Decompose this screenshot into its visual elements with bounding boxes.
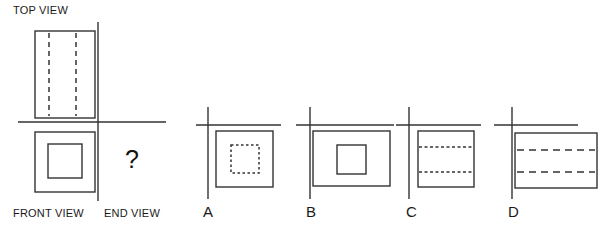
front-view-drawing (35, 132, 95, 192)
top-view-drawing (35, 31, 95, 118)
option-b-drawing[interactable] (296, 107, 394, 199)
end-view-label: END VIEW (104, 207, 160, 219)
top-view-label: TOP VIEW (13, 4, 68, 16)
option-d-drawing[interactable] (494, 107, 597, 199)
drawing-canvas (0, 0, 610, 233)
question-mark: ? (125, 145, 139, 174)
front-view-label: FRONT VIEW (13, 207, 84, 219)
option-d-letter[interactable]: D (508, 203, 519, 220)
option-b-letter[interactable]: B (306, 203, 316, 220)
problem-reference-axes (18, 22, 166, 201)
option-c-letter[interactable]: C (406, 203, 417, 220)
option-a-letter[interactable]: A (203, 203, 213, 220)
orthographic-projection-puzzle: TOP VIEW FRONT VIEW END VIEW ? A B C D (0, 0, 610, 233)
option-c-drawing[interactable] (396, 107, 481, 199)
option-a-drawing[interactable] (196, 107, 281, 199)
